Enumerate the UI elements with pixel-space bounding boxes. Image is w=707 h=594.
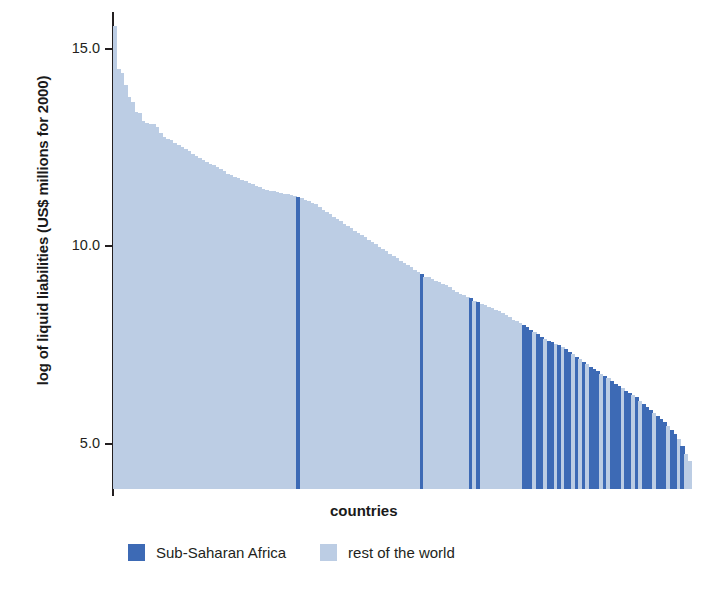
legend-item-sub-saharan-africa: Sub-Saharan Africa [128, 544, 286, 561]
chart-figure: log of liquid liabilities (US$ millions … [0, 0, 707, 594]
figure-bottom-edge [0, 586, 707, 594]
y-tick-label-15: 15.0 [54, 40, 100, 56]
y-tick-label-10: 10.0 [54, 237, 100, 253]
chart-legend: Sub-Saharan Africa rest of the world [128, 540, 489, 564]
bar-series [113, 12, 691, 489]
y-tick-label-5: 5.0 [54, 435, 100, 451]
legend-item-rest-of-the-world: rest of the world [320, 544, 455, 561]
legend-label-rest-of-the-world: rest of the world [348, 544, 455, 561]
legend-swatch-sub-saharan-africa [128, 544, 145, 561]
y-axis-tick-labels: 15.0 10.0 5.0 [42, 0, 100, 500]
plot-area [113, 12, 691, 489]
legend-swatch-rest-of-the-world [320, 544, 337, 561]
x-axis-label: countries [330, 502, 530, 519]
legend-label-sub-saharan-africa: Sub-Saharan Africa [156, 544, 286, 561]
bar [687, 461, 691, 489]
